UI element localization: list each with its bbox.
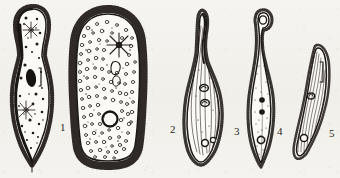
specimen-4-drawing xyxy=(248,10,274,167)
specimen-label-3: 3 xyxy=(234,126,240,137)
specimen-label-1: 1 xyxy=(60,122,66,133)
specimen-label-4: 4 xyxy=(277,126,283,137)
specimen-3-drawing xyxy=(184,10,222,165)
specimen-label-5: 5 xyxy=(329,128,335,139)
specimen-2-drawing xyxy=(72,9,143,166)
specimen-5-drawing xyxy=(294,45,330,159)
specimen-1-drawing xyxy=(12,6,52,172)
specimen-drawings xyxy=(0,0,340,178)
specimen-label-2: 2 xyxy=(170,124,176,135)
figure-plate: 1 2 3 4 5 xyxy=(0,0,340,178)
